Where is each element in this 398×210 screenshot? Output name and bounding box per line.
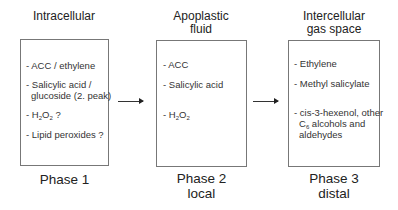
box-intracellular: - ACC / ethylene - Salicylic acid / gluc… [20,39,109,166]
item-cis-3-hexenol: - cis-3-hexenol, other C6 alcohols and a… [294,107,383,140]
item-acc-ethylene: - ACC / ethylene [26,60,95,71]
heading-apoplastic-fluid: Apoplastic fluid [156,10,246,36]
item-text: aldehydes [294,129,383,140]
phase-3-label: Phase 3 distal [288,171,380,201]
item-text: C [299,118,306,129]
item-text: - cis-3-hexenol, other [294,107,383,118]
item-text: - Salicylic acid / [26,79,111,90]
heading-line: fluid [156,23,246,36]
phase-line: Phase 1 [20,172,109,187]
item-salicylic-acid: - Salicylic acid [163,79,223,90]
phase-line: Phase 3 [288,171,380,186]
item-text: - H [26,109,39,120]
heading-line: Intracellular [20,10,108,23]
phase-line: distal [288,186,380,201]
item-text: - Methyl salicylate [294,78,370,89]
item-methyl-salicylate: - Methyl salicylate [294,78,370,89]
item-c6-alcohols: C6 alcohols and [294,118,383,129]
item-text: - Ethylene [294,58,337,69]
heading-line: gas space [288,23,380,36]
arrow-right-icon [118,101,143,102]
box-apoplastic-fluid: - ACC - Salicylic acid - H2O2 [156,40,247,167]
item-text: ? [53,109,61,120]
arrow-right-icon [253,101,278,102]
item-salicylic-glucoside: - Salicylic acid / glucoside (2. peak) [26,79,111,101]
item-acc: - ACC [163,59,188,70]
box-intercellular-gas-space: - Ethylene - Methyl salicylate - cis-3-h… [288,40,380,167]
subscript: 2 [186,115,189,121]
heading-intercellular-gas-space: Intercellular gas space [288,10,380,36]
item-h2o2: - H2O2 [163,109,190,120]
heading-intracellular: Intracellular [20,10,108,23]
item-lipid-peroxides: - Lipid peroxides ? [26,129,104,140]
item-text: - ACC / ethylene [26,60,95,71]
item-text: glucoside (2. peak) [26,90,111,101]
item-text: - ACC [163,59,188,70]
phase-line: Phase 2 [156,171,247,186]
item-ethylene: - Ethylene [294,58,337,69]
item-text: - H [163,109,176,120]
item-h2o2: - H2O2 ? [26,109,61,120]
item-text: alcohols and [309,118,365,129]
phase-line: local [156,186,247,201]
phase-1-label: Phase 1 [20,172,109,187]
item-text: - Salicylic acid [163,79,223,90]
phase-2-label: Phase 2 local [156,171,247,201]
item-text: - Lipid peroxides ? [26,129,104,140]
